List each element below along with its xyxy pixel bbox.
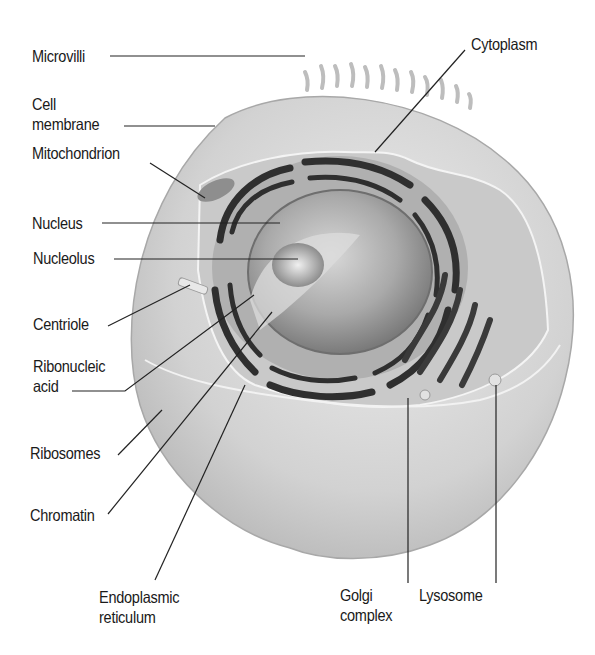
label-endoplasmic-reticulum: Endoplasmicreticulum	[99, 587, 179, 627]
label-mitochondrion: Mitochondrion	[32, 143, 120, 163]
label-text: Chromatin	[30, 506, 95, 524]
label-text: Centriole	[33, 315, 89, 333]
label-nucleus: Nucleus	[32, 213, 83, 233]
label-microvilli: Microvilli	[32, 46, 85, 66]
label-ribonucleic-acid: Ribonucleicacid	[33, 356, 105, 396]
label-chromatin: Chromatin	[30, 505, 95, 525]
label-text: complex	[340, 606, 392, 624]
label-text: Microvilli	[32, 47, 85, 65]
label-text: membrane	[32, 115, 99, 133]
label-text: reticulum	[99, 608, 156, 626]
label-cytoplasm: Cytoplasm	[471, 34, 537, 54]
label-lysosome: Lysosome	[419, 585, 483, 605]
label-centriole: Centriole	[33, 314, 89, 334]
label-text: Cell	[32, 95, 56, 113]
label-text: Nucleus	[32, 214, 83, 232]
label-text: Lysosome	[419, 586, 483, 604]
label-text: Mitochondrion	[32, 144, 120, 162]
label-nucleolus: Nucleolus	[33, 248, 94, 268]
label-text: Golgi	[340, 586, 373, 604]
label-ribosomes: Ribosomes	[30, 443, 100, 463]
label-text: Ribonucleic	[33, 357, 105, 375]
label-text: Cytoplasm	[471, 35, 537, 53]
label-golgi-complex: Golgicomplex	[340, 585, 392, 625]
label-text: Endoplasmic	[99, 588, 179, 606]
label-cell-membrane: Cellmembrane	[32, 94, 99, 134]
label-text: Nucleolus	[33, 249, 94, 267]
nucleolus-shape	[272, 243, 324, 287]
label-text: Ribosomes	[30, 444, 100, 462]
label-text: acid	[33, 377, 59, 395]
